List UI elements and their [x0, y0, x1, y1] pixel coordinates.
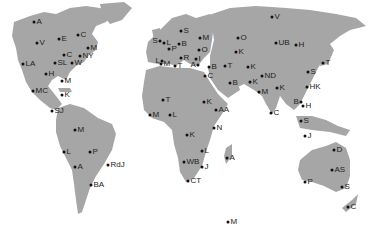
city-marker[interactable]: T: [322, 59, 331, 67]
city-marker[interactable]: M: [227, 218, 238, 226]
city-marker[interactable]: O: [198, 46, 208, 54]
city-dot-icon: [322, 61, 325, 64]
city-marker[interactable]: V: [36, 39, 45, 47]
city-dot-icon: [229, 81, 232, 84]
city-marker[interactable]: K: [61, 91, 70, 99]
city-marker[interactable]: I: [195, 55, 201, 63]
city-dot-icon: [63, 53, 66, 56]
city-marker[interactable]: N: [213, 124, 223, 132]
city-marker[interactable]: M: [61, 77, 72, 85]
city-dot-icon: [226, 156, 229, 159]
city-marker[interactable]: S: [153, 37, 162, 45]
city-marker[interactable]: SJ: [51, 107, 64, 115]
city-dot-icon: [32, 89, 35, 92]
city-dot-icon: [275, 41, 278, 44]
city-marker[interactable]: K: [203, 98, 212, 106]
city-marker[interactable]: W: [71, 59, 83, 67]
city-label: S: [304, 117, 309, 125]
city-label: K: [239, 48, 244, 56]
city-marker[interactable]: RdJ: [107, 161, 125, 169]
city-marker[interactable]: V: [271, 13, 280, 21]
city-label: WB: [187, 158, 200, 166]
city-marker[interactable]: L: [201, 147, 209, 155]
city-marker[interactable]: A: [74, 163, 83, 171]
city-marker[interactable]: C: [270, 109, 280, 117]
city-marker[interactable]: HK: [306, 83, 321, 91]
city-marker[interactable]: C: [77, 31, 87, 39]
city-marker[interactable]: M: [149, 111, 160, 119]
city-dot-icon: [341, 185, 344, 188]
city-marker[interactable]: P: [89, 148, 98, 156]
city-marker[interactable]: E: [58, 35, 67, 43]
city-dot-icon: [195, 57, 198, 60]
city-marker[interactable]: T: [162, 96, 171, 104]
city-marker[interactable]: UB: [275, 39, 290, 47]
city-dot-icon: [235, 50, 238, 53]
city-dot-icon: [347, 205, 350, 208]
city-marker[interactable]: K: [249, 78, 258, 86]
city-marker[interactable]: L: [169, 111, 177, 119]
world-map: A V E C M C NY W LA SL H M MC K SJ M L P…: [0, 0, 372, 232]
city-marker[interactable]: T: [174, 62, 183, 70]
city-marker[interactable]: J: [304, 132, 312, 140]
city-marker[interactable]: A: [33, 18, 42, 26]
city-label: UB: [279, 39, 290, 47]
city-marker[interactable]: K: [247, 63, 256, 71]
city-marker[interactable]: C: [204, 72, 214, 80]
city-marker[interactable]: L: [63, 148, 71, 156]
city-marker[interactable]: SL: [54, 59, 68, 67]
city-marker[interactable]: H: [45, 70, 55, 78]
city-marker[interactable]: O: [237, 34, 247, 42]
city-marker[interactable]: AA: [215, 106, 230, 114]
city-label: T: [228, 62, 233, 70]
city-dot-icon: [186, 133, 189, 136]
city-marker[interactable]: A: [226, 154, 235, 162]
city-dot-icon: [22, 62, 25, 65]
city-label: AS: [335, 166, 346, 174]
city-marker[interactable]: P: [168, 45, 177, 53]
city-label: LA: [26, 60, 36, 68]
city-marker[interactable]: S: [300, 117, 309, 125]
city-marker[interactable]: S: [341, 183, 350, 191]
city-dot-icon: [89, 150, 92, 153]
city-marker[interactable]: H: [295, 41, 305, 49]
city-label: P: [93, 148, 98, 156]
city-dot-icon: [237, 36, 240, 39]
city-marker[interactable]: AS: [331, 166, 346, 174]
city-marker[interactable]: WB: [183, 158, 200, 166]
city-dot-icon: [197, 63, 200, 66]
city-marker[interactable]: B: [208, 63, 217, 71]
city-label: A: [37, 18, 42, 26]
city-marker[interactable]: LA: [22, 60, 36, 68]
city-marker[interactable]: M: [160, 60, 171, 68]
city-marker[interactable]: H: [302, 102, 312, 110]
city-marker[interactable]: BA: [90, 181, 105, 189]
city-label: M: [153, 111, 160, 119]
city-marker[interactable]: C: [347, 203, 357, 211]
city-marker[interactable]: CT: [187, 177, 202, 185]
city-label: K: [253, 78, 258, 86]
city-label: M: [65, 77, 72, 85]
city-marker[interactable]: P: [304, 178, 313, 186]
city-marker[interactable]: J: [201, 163, 209, 171]
city-dot-icon: [307, 70, 310, 73]
city-marker[interactable]: K: [186, 131, 195, 139]
city-dot-icon: [224, 64, 227, 67]
city-marker[interactable]: ND: [261, 72, 277, 80]
city-marker[interactable]: B: [178, 40, 187, 48]
city-marker[interactable]: K: [276, 84, 285, 92]
city-marker[interactable]: M: [199, 34, 210, 42]
city-label: I: [199, 55, 201, 63]
city-marker[interactable]: D: [333, 146, 343, 154]
city-marker[interactable]: M: [74, 126, 85, 134]
city-marker[interactable]: S: [307, 68, 316, 76]
city-marker[interactable]: M: [258, 88, 269, 96]
city-marker[interactable]: T: [224, 62, 233, 70]
city-dot-icon: [306, 85, 309, 88]
city-marker[interactable]: B: [229, 79, 238, 87]
city-marker[interactable]: MC: [32, 87, 48, 95]
city-marker[interactable]: K: [235, 48, 244, 56]
city-marker[interactable]: S: [180, 27, 189, 35]
city-dot-icon: [198, 48, 201, 51]
city-label: B: [294, 98, 299, 106]
